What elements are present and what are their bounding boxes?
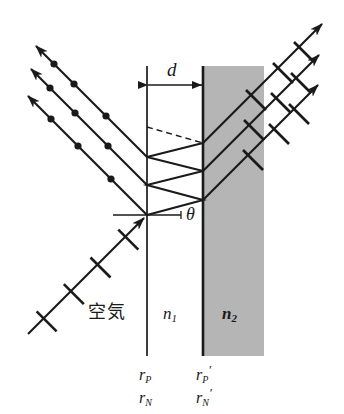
reflected-ray-2 [31,69,147,185]
polarization-tick [271,93,291,113]
medium-n2-label: n2 [222,305,237,322]
polarization-dot [70,80,77,87]
air-region-label: 空気 [88,303,126,321]
polarization-dot [71,109,78,116]
rn-prime-mark: ′ [209,385,212,400]
polarization-dot [107,175,114,182]
medium-n1-label: n1 [163,305,177,322]
reflection-coefficient-rp-prime-label: rP′ [196,367,211,383]
reflected-ray-3 [36,46,147,157]
polarization-dot [50,60,57,67]
polarization-tick [294,42,314,62]
incident-ray [28,218,144,334]
rn-subscript: N [145,397,152,408]
n1-symbol: n [163,304,172,323]
thickness-label: d [167,60,177,79]
polarization-dot [46,84,53,91]
reflection-coefficient-rn-label: rN [139,390,152,406]
polarization-tick [291,73,311,93]
reflection-coefficient-rn-prime-label: rN′ [196,390,212,406]
rp-prime-mark: ′ [208,362,211,377]
polarization-dot [104,142,111,149]
polarization-dot [74,142,81,149]
reflected-ray-1 [28,96,147,215]
optics-figure: d θ 空気 n1 n2 rP rN rP′ rN′ [0,0,344,414]
polarization-tick [273,63,293,83]
incidence-angle-label: θ [186,205,195,223]
polarization-tick [269,124,289,144]
dashed-construction-line [147,127,203,143]
n1-subscript: 1 [172,312,178,324]
polarization-dot [102,112,109,119]
n2-subscript: 2 [231,312,237,324]
rn-prime-subscript: N [202,397,209,408]
reflection-coefficient-rp-label: rP [139,367,151,383]
polarization-tick [289,104,309,124]
polarization-dot [47,115,54,122]
rp-subscript: P [145,374,151,385]
